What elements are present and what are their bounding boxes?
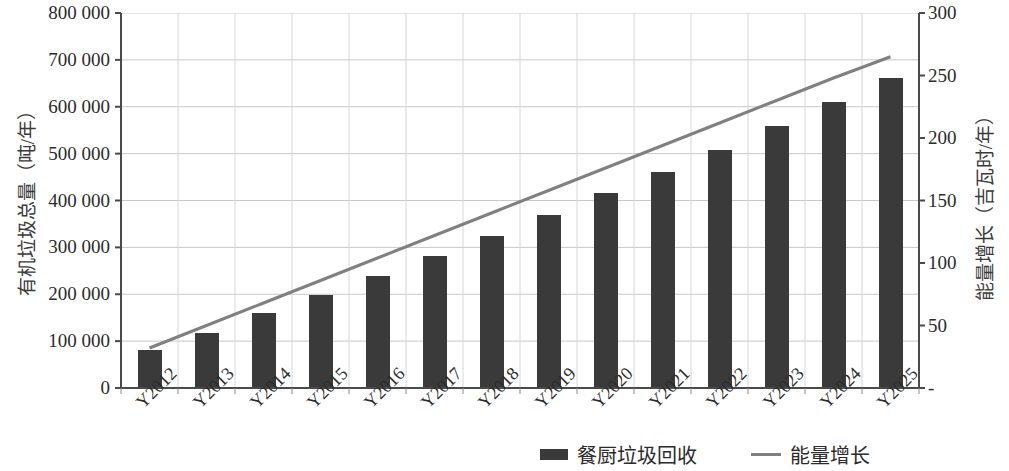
bar-swatch-icon — [540, 449, 568, 460]
legend-item-line[interactable]: 能量增长 — [751, 440, 870, 469]
legend-label-line: 能量增长 — [790, 440, 870, 469]
y-right-tick-250: 250 — [928, 66, 957, 85]
y-left-tick-600000: 600 000 — [48, 97, 110, 116]
y-right-tick-150: 150 — [928, 191, 957, 210]
y-left-tick-300000: 300 000 — [48, 237, 110, 256]
line-series-nengliangzengzhang — [121, 13, 919, 388]
y-axis-right-ticks: -50100150200250300 — [928, 0, 988, 471]
y-left-tick-400000: 400 000 — [48, 191, 110, 210]
legend-label-bar: 餐厨垃圾回收 — [577, 440, 697, 469]
chart-figure: 有机垃圾总量（吨/年） 能量增长（吉瓦时/年） 0100 000200 0003… — [0, 0, 1009, 471]
plot-area — [121, 13, 919, 388]
y-right-tick-100: 100 — [928, 253, 957, 272]
y-axis-left-ticks: 0100 000200 000300 000400 000500 000600 … — [14, 0, 110, 471]
line-swatch-icon — [751, 453, 781, 456]
y-right-tick-200: 200 — [928, 128, 957, 147]
y-left-tick-200000: 200 000 — [48, 284, 110, 303]
y-left-tick-0: 0 — [101, 378, 111, 397]
chart-legend: 餐厨垃圾回收 能量增长 — [540, 441, 870, 467]
legend-item-bar[interactable]: 餐厨垃圾回收 — [540, 440, 697, 469]
y-right-tick-300: 300 — [928, 3, 957, 22]
y-right-tick--: - — [928, 378, 934, 397]
y-left-tick-100000: 100 000 — [48, 331, 110, 350]
y-left-tick-500000: 500 000 — [48, 144, 110, 163]
y-left-tick-700000: 700 000 — [48, 50, 110, 69]
y-right-tick-50: 50 — [928, 316, 947, 335]
y-left-tick-800000: 800 000 — [48, 3, 110, 22]
